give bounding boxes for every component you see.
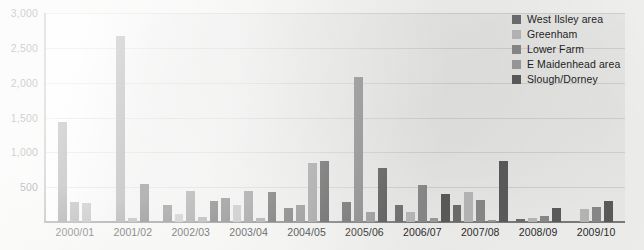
legend-item-label: Slough/Dorney [527, 73, 598, 85]
bar[interactable] [488, 220, 497, 222]
x-axis-tick-label: 2002/03 [162, 226, 220, 238]
bar[interactable] [58, 122, 67, 222]
bar[interactable] [320, 161, 329, 222]
bar[interactable] [221, 198, 230, 222]
bar[interactable] [464, 192, 473, 222]
bar[interactable] [296, 205, 305, 222]
legend-item-label: E Maidenhead area [527, 58, 620, 70]
bar[interactable] [592, 207, 601, 222]
bar[interactable] [395, 205, 404, 222]
bar-group [104, 13, 162, 222]
bar[interactable] [256, 218, 265, 222]
bar[interactable] [516, 219, 525, 222]
bar[interactable] [418, 185, 427, 222]
bar-chart: 5001,0001,5002,0002,5003,000 2000/012001… [0, 0, 644, 250]
bar[interactable] [499, 161, 508, 222]
bar[interactable] [128, 218, 137, 222]
bar[interactable] [604, 201, 613, 222]
bar-group [336, 13, 394, 222]
bar[interactable] [342, 202, 351, 222]
y-axis-tick-label: 2,500 [11, 42, 38, 54]
bar[interactable] [528, 218, 537, 222]
y-axis-tick-label: 500 [20, 181, 38, 193]
legend-swatch-icon [512, 15, 521, 24]
legend-item-label: West Ilsley area [527, 13, 603, 25]
bar[interactable] [233, 205, 242, 222]
x-axis-tick-label: 2008/09 [509, 226, 567, 238]
bar[interactable] [82, 203, 91, 222]
y-axis-tick-label: 3,000 [11, 7, 38, 19]
bar[interactable] [186, 191, 195, 222]
legend-item[interactable]: Lower Farm [512, 42, 620, 56]
legend-swatch-icon [512, 60, 521, 69]
legend-item[interactable]: E Maidenhead area [512, 57, 620, 71]
bar[interactable] [70, 202, 79, 222]
bar[interactable] [580, 209, 589, 222]
legend-item[interactable]: Greenham [512, 27, 620, 41]
y-axis-tick-label: 2,000 [11, 77, 38, 89]
legend-swatch-icon [512, 75, 521, 84]
bar-group [451, 13, 509, 222]
bar[interactable] [268, 192, 277, 222]
bar[interactable] [354, 77, 363, 222]
bar-group [393, 13, 451, 222]
x-axis-tick-label: 2001/02 [104, 226, 162, 238]
legend-item-label: Lower Farm [527, 43, 584, 55]
bar[interactable] [163, 205, 172, 222]
x-axis-tick-label: 2006/07 [393, 226, 451, 238]
legend-item[interactable]: West Ilsley area [512, 12, 620, 26]
y-axis-tick-label: 1,000 [11, 146, 38, 158]
bar[interactable] [453, 205, 462, 222]
x-axis-tick-label: 2003/04 [220, 226, 278, 238]
bar[interactable] [308, 163, 317, 222]
bar-group [46, 13, 104, 222]
x-axis-tick-label: 2004/05 [278, 226, 336, 238]
y-axis-tick-labels: 5001,0001,5002,0002,5003,000 [0, 0, 42, 250]
bar-group [278, 13, 336, 222]
legend-item-label: Greenham [527, 28, 577, 40]
x-axis-tick-label: 2007/08 [451, 226, 509, 238]
x-axis-tick-labels: 2000/012001/022002/032003/042004/052005/… [46, 226, 625, 248]
legend-swatch-icon [512, 45, 521, 54]
bar[interactable] [140, 184, 149, 222]
bar[interactable] [116, 36, 125, 222]
legend-item[interactable]: Slough/Dorney [512, 72, 620, 86]
x-axis-tick-label: 2005/06 [336, 226, 394, 238]
bar[interactable] [210, 201, 219, 222]
bar[interactable] [378, 168, 387, 222]
bar[interactable] [406, 212, 415, 222]
bar[interactable] [540, 216, 549, 222]
x-axis-tick-label: 2009/10 [567, 226, 625, 238]
bar[interactable] [366, 212, 375, 222]
legend: West Ilsley areaGreenhamLower FarmE Maid… [508, 9, 624, 91]
x-axis-tick-label: 2000/01 [46, 226, 104, 238]
legend-swatch-icon [512, 30, 521, 39]
y-axis-tick-label: 1,500 [11, 112, 38, 124]
bar[interactable] [552, 208, 561, 222]
bar-group [162, 13, 220, 222]
bar[interactable] [476, 200, 485, 222]
bar[interactable] [284, 208, 293, 222]
bar[interactable] [198, 217, 207, 222]
bar[interactable] [244, 191, 253, 222]
bar[interactable] [441, 194, 450, 222]
bar-group [220, 13, 278, 222]
bar[interactable] [175, 214, 184, 222]
bar[interactable] [430, 218, 439, 222]
